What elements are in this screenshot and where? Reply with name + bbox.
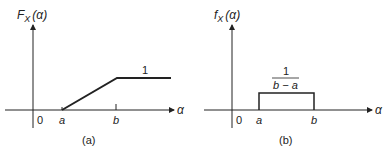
panel-b-xlabel: α [375, 103, 383, 117]
panel-a-xlabel: α [177, 103, 185, 117]
panel-b-origin-label: 0 [236, 114, 242, 126]
panel-a-cdf: FX(α) α 0 a b 1 (a) [5, 8, 185, 146]
panel-a-origin-label: 0 [37, 114, 43, 126]
panel-a-plateau-label: 1 [142, 64, 148, 76]
panel-b-label-a: a [256, 114, 262, 126]
panel-b-caption: (b) [279, 134, 292, 146]
panel-b-pdf-rect [259, 93, 314, 110]
figure-canvas: FX(α) α 0 a b 1 (a) fX(α) α 0 a b 1 b − … [0, 0, 387, 155]
panel-b-height-denominator: b − a [273, 79, 298, 91]
panel-a-label-b: b [113, 114, 119, 126]
uniform-distribution-figure: FX(α) α 0 a b 1 (a) fX(α) α 0 a b 1 b − … [0, 0, 387, 155]
panel-b-pdf: fX(α) α 0 a b 1 b − a (b) [204, 8, 383, 146]
panel-b-label-b: b [311, 114, 317, 126]
panel-b-height-numerator: 1 [283, 65, 289, 77]
panel-a-ylabel: FX(α) [17, 8, 47, 24]
panel-a-caption: (a) [82, 134, 95, 146]
panel-b-ylabel: fX(α) [214, 8, 240, 24]
panel-a-label-a: a [59, 114, 65, 126]
